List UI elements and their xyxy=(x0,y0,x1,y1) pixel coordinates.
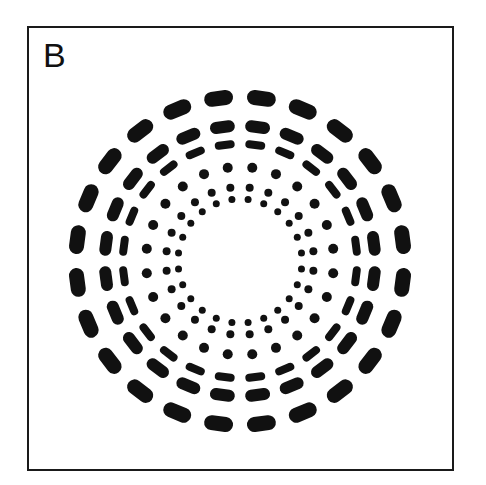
dash-mark xyxy=(99,265,114,291)
dot-mark xyxy=(142,268,152,278)
dash-mark xyxy=(161,97,194,122)
dash-mark xyxy=(124,295,139,317)
dot-mark xyxy=(294,234,301,241)
dot-mark xyxy=(187,220,194,227)
rings-group xyxy=(68,89,412,433)
dot-mark xyxy=(260,315,267,322)
dot-mark xyxy=(179,234,186,241)
dash-mark xyxy=(324,376,356,406)
dot-mark xyxy=(223,163,233,173)
ring-4-dots xyxy=(142,163,338,359)
dash-mark xyxy=(124,376,156,406)
dash-mark xyxy=(76,182,101,215)
dash-mark xyxy=(351,235,362,256)
ring-3-dashes xyxy=(119,140,362,383)
dot-mark xyxy=(191,316,199,324)
dot-mark xyxy=(246,330,254,338)
dash-mark xyxy=(278,375,306,396)
dash-mark xyxy=(278,126,306,147)
dash-mark xyxy=(76,307,101,340)
dash-mark xyxy=(158,345,179,364)
dot-mark xyxy=(304,229,312,237)
dot-mark xyxy=(163,267,171,275)
dash-mark xyxy=(246,414,277,433)
dot-mark xyxy=(148,220,158,230)
dash-mark xyxy=(393,224,412,255)
dot-mark xyxy=(260,200,267,207)
dash-mark xyxy=(366,265,381,291)
dash-mark xyxy=(124,205,139,227)
dot-mark xyxy=(142,244,152,254)
dot-mark xyxy=(208,189,216,197)
dash-mark xyxy=(341,295,356,317)
dash-mark xyxy=(379,182,404,215)
dot-mark xyxy=(292,331,302,341)
dash-mark xyxy=(209,387,235,402)
dot-mark xyxy=(228,319,235,326)
dash-mark xyxy=(161,400,194,425)
dot-mark xyxy=(187,295,194,302)
dot-mark xyxy=(226,184,234,192)
dash-mark xyxy=(68,267,87,298)
dash-mark xyxy=(138,179,157,200)
dash-mark xyxy=(124,116,156,146)
dash-mark xyxy=(354,195,375,223)
dot-mark xyxy=(264,189,272,197)
dash-mark xyxy=(286,400,319,425)
dot-mark xyxy=(286,295,293,302)
dot-mark xyxy=(245,319,252,326)
dot-mark xyxy=(160,313,170,323)
dash-mark xyxy=(214,140,235,151)
dot-mark xyxy=(292,181,302,191)
dot-mark xyxy=(294,281,301,288)
dash-mark xyxy=(203,89,234,108)
dash-mark xyxy=(184,145,206,160)
dot-mark xyxy=(304,285,312,293)
dash-mark xyxy=(121,165,146,192)
dot-mark xyxy=(168,229,176,237)
dot-mark xyxy=(298,266,305,273)
dot-mark xyxy=(175,266,182,273)
dot-mark xyxy=(271,343,281,353)
dot-mark xyxy=(281,316,289,324)
dot-mark xyxy=(223,349,233,359)
dash-mark xyxy=(379,307,404,340)
dash-mark xyxy=(105,299,126,327)
dash-mark xyxy=(274,362,296,377)
dash-mark xyxy=(184,362,206,377)
dot-mark xyxy=(178,181,188,191)
dash-mark xyxy=(119,266,130,287)
dot-mark xyxy=(281,198,289,206)
dot-mark xyxy=(199,343,209,353)
dot-mark xyxy=(298,249,305,256)
dot-mark xyxy=(274,307,281,314)
dot-mark xyxy=(177,302,185,310)
dash-mark xyxy=(354,299,375,327)
dash-mark xyxy=(68,224,87,255)
dash-mark xyxy=(174,375,202,396)
dot-mark xyxy=(274,208,281,215)
dot-mark xyxy=(328,268,338,278)
dash-mark xyxy=(335,165,360,192)
dot-mark xyxy=(213,200,220,207)
dot-mark xyxy=(163,247,171,255)
dash-mark xyxy=(309,142,336,167)
dash-mark xyxy=(144,356,171,381)
dash-mark xyxy=(301,159,322,178)
dot-mark xyxy=(148,292,158,302)
dash-mark xyxy=(119,235,130,256)
dot-mark xyxy=(199,208,206,215)
dash-mark xyxy=(324,179,343,200)
dot-mark xyxy=(246,184,254,192)
dash-mark xyxy=(324,322,343,343)
dash-mark xyxy=(393,267,412,298)
dot-mark xyxy=(160,199,170,209)
dot-mark xyxy=(271,169,281,179)
dash-mark xyxy=(335,330,360,357)
dash-mark xyxy=(341,205,356,227)
dash-mark xyxy=(138,322,157,343)
dash-mark xyxy=(309,356,336,381)
ring-2-dashes xyxy=(99,120,382,403)
dot-mark xyxy=(328,244,338,254)
dot-mark xyxy=(245,196,252,203)
